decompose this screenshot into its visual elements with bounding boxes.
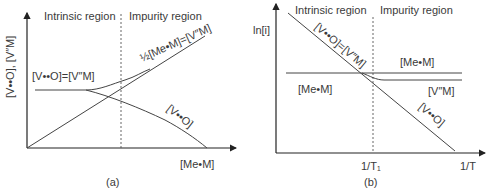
vm-label: [V″M] — [428, 85, 455, 97]
y-axis-label: ln[i] — [253, 24, 270, 36]
lower-curve-label: [V••O] — [165, 102, 196, 130]
region-left-label: Intrinsic region — [295, 4, 367, 16]
x-tick-label: 1/T₁ — [361, 160, 381, 172]
panel-a: Intrinsic region Impurity region [V••O],… — [4, 10, 236, 188]
caption-a: (a) — [106, 176, 119, 188]
region-right-label: Impurity region — [129, 10, 202, 22]
y-axis-label: [V••O], [V″M] — [4, 36, 16, 98]
region-left-label: Intrinsic region — [44, 10, 116, 22]
caption-b: (b) — [364, 176, 377, 188]
diag-lower-label: [V••O] — [417, 100, 447, 128]
me-left-label: [Me•M] — [298, 83, 332, 95]
impurity-asymptote-line — [27, 36, 205, 148]
x-axis-label: [Me•M] — [180, 158, 214, 170]
region-right-label: Impurity region — [380, 4, 453, 16]
vm-line — [362, 73, 462, 80]
intrinsic-diagonal-line — [288, 13, 455, 151]
defect-concentration-diagrams: Intrinsic region Impurity region [V••O],… — [0, 0, 491, 193]
me-right-label: [Me•M] — [400, 56, 434, 68]
upper-curve-label: ½[Me•M]=[V″M] — [138, 22, 213, 64]
diag-upper-label: [V••O]=[V″M] — [313, 20, 369, 69]
plateau-label: [V••O]=[V″M] — [32, 70, 95, 82]
x-axis-label: 1/T — [460, 160, 476, 172]
panel-b: Intrinsic region Impurity region ln[i] 1… — [253, 4, 485, 188]
